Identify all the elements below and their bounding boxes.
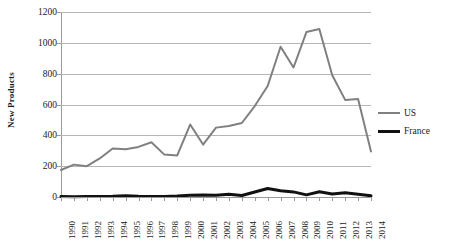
legend-label-france: France xyxy=(404,126,430,136)
y-tick-label-0: 0 xyxy=(13,192,57,202)
x-tick-label-2001: 2001 xyxy=(208,199,220,239)
x-axis-tick-labels: 1990199119921993199419951996199719981999… xyxy=(61,201,371,241)
x-tick-label-1998: 1998 xyxy=(169,199,181,239)
chart-container: New Products 120010008006004002000 19901… xyxy=(0,0,454,241)
x-tick-label-1992: 1992 xyxy=(92,199,104,239)
x-tick-label-2009: 2009 xyxy=(311,199,323,239)
x-tick-label-1991: 1991 xyxy=(79,199,91,239)
x-tick-label-1995: 1995 xyxy=(131,199,143,239)
series-line-us xyxy=(61,29,371,170)
x-tick-label-1993: 1993 xyxy=(105,199,117,239)
y-tick-label-1200: 1200 xyxy=(13,7,57,17)
x-tick-label-1997: 1997 xyxy=(156,199,168,239)
chart-legend: US France xyxy=(378,104,454,140)
x-tick-label-2012: 2012 xyxy=(350,199,362,239)
x-tick-label-2003: 2003 xyxy=(234,199,246,239)
series-plot xyxy=(61,12,371,197)
x-tick-label-2002: 2002 xyxy=(221,199,233,239)
x-tick-label-1999: 1999 xyxy=(182,199,194,239)
legend-entry-france: France xyxy=(378,122,454,140)
series-line-france xyxy=(61,189,371,197)
x-tick-label-2014: 2014 xyxy=(376,199,388,239)
y-tick-label-1000: 1000 xyxy=(13,38,57,48)
x-tick-label-2007: 2007 xyxy=(286,199,298,239)
x-tick-label-2013: 2013 xyxy=(363,199,375,239)
plot-area xyxy=(61,12,371,197)
x-tick-label-2000: 2000 xyxy=(195,199,207,239)
y-tick-label-400: 400 xyxy=(13,130,57,140)
x-tick-label-2011: 2011 xyxy=(337,199,349,239)
legend-label-us: US xyxy=(404,108,416,118)
x-tick-label-2010: 2010 xyxy=(324,199,336,239)
x-tick-label-2006: 2006 xyxy=(273,199,285,239)
y-tick-label-600: 600 xyxy=(13,100,57,110)
legend-swatch-us-icon xyxy=(378,112,400,114)
legend-swatch-france-icon xyxy=(378,130,400,133)
x-tick-label-1996: 1996 xyxy=(144,199,156,239)
x-tick-label-1994: 1994 xyxy=(118,199,130,239)
x-tick-label-2004: 2004 xyxy=(247,199,259,239)
y-axis-tick-labels: 120010008006004002000 xyxy=(12,12,57,197)
y-tick-label-200: 200 xyxy=(13,161,57,171)
y-tick-label-800: 800 xyxy=(13,69,57,79)
x-tick-label-1990: 1990 xyxy=(66,199,78,239)
x-tick-label-2005: 2005 xyxy=(260,199,272,239)
x-tick-label-2008: 2008 xyxy=(299,199,311,239)
legend-entry-us: US xyxy=(378,104,454,122)
